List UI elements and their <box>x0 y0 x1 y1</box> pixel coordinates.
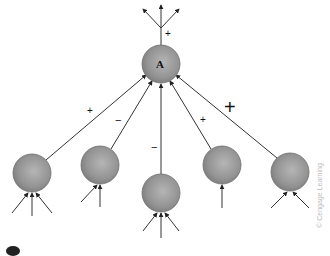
neuron-input-5 <box>271 153 309 191</box>
output-axon <box>143 5 179 45</box>
sign-n4: + <box>200 115 206 125</box>
output-sign: + <box>165 29 171 39</box>
copyright-credit: © Cengage Learning <box>316 163 323 228</box>
synaptic-connections <box>46 75 277 174</box>
cropped-marker <box>6 246 20 256</box>
neuron-input-3 <box>142 174 180 212</box>
sign-n3: − <box>151 142 157 153</box>
neuron-a-label: A <box>156 58 164 70</box>
sign-n1: + <box>87 106 93 116</box>
neuron-input-2 <box>81 146 119 184</box>
sign-n2: − <box>115 115 121 126</box>
sign-n5: + <box>224 97 236 117</box>
neuron-input-4 <box>203 146 241 184</box>
neuron-input-1 <box>13 154 51 192</box>
